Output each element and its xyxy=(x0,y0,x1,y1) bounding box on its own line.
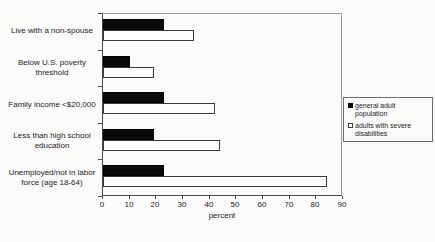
bar-general-4 xyxy=(103,165,164,176)
bar-severe-4 xyxy=(103,176,327,187)
x-tick-label-70: 70 xyxy=(278,200,300,209)
category-label-0: Live with a non-spouse xyxy=(6,26,98,36)
x-tick-label-30: 30 xyxy=(171,200,193,209)
category-label-4: Unemployed/not in labor force (age 18-64… xyxy=(6,168,98,188)
legend-label: general adult population xyxy=(355,102,429,118)
category-label-2: Family income <$20,000 xyxy=(6,100,98,110)
legend-item-severe-disabilities: adults with severe disabilities xyxy=(347,122,429,138)
x-tick-label-40: 40 xyxy=(198,200,220,209)
bar-general-0 xyxy=(103,19,164,30)
bar-chart: Live with a non-spouseBelow U.S. poverty… xyxy=(0,0,435,242)
x-tick-label-60: 60 xyxy=(251,200,273,209)
y-tick-mark xyxy=(98,159,102,160)
plot-area xyxy=(102,13,342,196)
bar-general-1 xyxy=(103,56,130,67)
y-tick-mark xyxy=(98,123,102,124)
legend-box: general adult population adults with sev… xyxy=(343,97,433,142)
x-axis-title: percent xyxy=(102,211,342,220)
x-tick-mark xyxy=(209,196,210,199)
bar-severe-3 xyxy=(103,140,220,151)
category-label-1: Below U.S. poverty threshold xyxy=(6,58,98,78)
x-tick-mark xyxy=(235,196,236,199)
x-tick-mark xyxy=(262,196,263,199)
x-tick-mark xyxy=(129,196,130,199)
y-tick-mark xyxy=(98,13,102,14)
bar-general-2 xyxy=(103,92,164,103)
x-tick-mark xyxy=(182,196,183,199)
y-tick-mark xyxy=(98,50,102,51)
white-square-swatch-icon xyxy=(348,123,353,128)
bar-severe-0 xyxy=(103,30,194,41)
category-label-3: Less than high school education xyxy=(6,131,98,151)
x-tick-label-10: 10 xyxy=(118,200,140,209)
x-tick-label-0: 0 xyxy=(91,200,113,209)
x-tick-mark xyxy=(289,196,290,199)
black-square-swatch-icon xyxy=(348,103,353,108)
x-tick-mark xyxy=(315,196,316,199)
bar-severe-1 xyxy=(103,67,154,78)
x-tick-label-50: 50 xyxy=(224,200,246,209)
bar-general-3 xyxy=(103,129,154,140)
bar-severe-2 xyxy=(103,103,215,114)
legend-label: adults with severe disabilities xyxy=(355,122,429,138)
x-tick-mark xyxy=(342,196,343,199)
x-tick-mark xyxy=(102,196,103,199)
legend-item-general-population: general adult population xyxy=(347,102,429,118)
x-tick-label-80: 80 xyxy=(304,200,326,209)
x-tick-label-90: 90 xyxy=(331,200,353,209)
y-tick-mark xyxy=(98,86,102,87)
x-tick-mark xyxy=(155,196,156,199)
x-tick-label-20: 20 xyxy=(144,200,166,209)
